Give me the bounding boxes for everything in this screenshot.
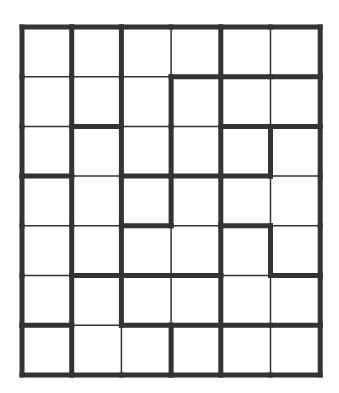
grid-cell[interactable] — [171, 325, 221, 375]
grid-cell[interactable] — [121, 176, 171, 226]
grid-cell[interactable] — [121, 77, 171, 127]
grid-cell[interactable] — [271, 77, 321, 127]
grid-cell[interactable] — [171, 126, 221, 176]
grid-cell[interactable] — [72, 226, 122, 276]
grid-cell[interactable] — [171, 27, 221, 77]
grid-cell[interactable] — [221, 126, 271, 176]
grid-cell[interactable] — [221, 176, 271, 226]
grid-cell[interactable] — [271, 226, 321, 276]
grid-cell[interactable] — [22, 226, 72, 276]
grid-cell[interactable] — [271, 176, 321, 226]
grid-cell[interactable] — [22, 77, 72, 127]
grid-cell[interactable] — [171, 226, 221, 276]
region-grid-puzzle — [0, 0, 339, 393]
grid-cell[interactable] — [72, 77, 122, 127]
grid-cell[interactable] — [22, 176, 72, 226]
grid-cell[interactable] — [22, 325, 72, 375]
grid-cell[interactable] — [221, 27, 271, 77]
grid-cell[interactable] — [171, 176, 221, 226]
grid-cell[interactable] — [72, 27, 122, 77]
grid-cell[interactable] — [221, 77, 271, 127]
grid-cell[interactable] — [271, 325, 321, 375]
grid-cell[interactable] — [22, 276, 72, 326]
grid-cell[interactable] — [72, 276, 122, 326]
grid-cell[interactable] — [271, 27, 321, 77]
grid-cell[interactable] — [271, 126, 321, 176]
grid-cell[interactable] — [72, 325, 122, 375]
grid-cell[interactable] — [22, 126, 72, 176]
grid-cell[interactable] — [271, 276, 321, 326]
grid-cell[interactable] — [121, 226, 171, 276]
grid-cell[interactable] — [72, 176, 122, 226]
grid-cell[interactable] — [121, 325, 171, 375]
grid-cell[interactable] — [121, 27, 171, 77]
grid-cell[interactable] — [22, 27, 72, 77]
grid-cell[interactable] — [72, 126, 122, 176]
grid-cell[interactable] — [221, 325, 271, 375]
grid-cell[interactable] — [121, 126, 171, 176]
grid-cell[interactable] — [221, 226, 271, 276]
grid-cell[interactable] — [171, 276, 221, 326]
grid-cell[interactable] — [121, 276, 171, 326]
grid-cell[interactable] — [171, 77, 221, 127]
grid-cell[interactable] — [221, 276, 271, 326]
